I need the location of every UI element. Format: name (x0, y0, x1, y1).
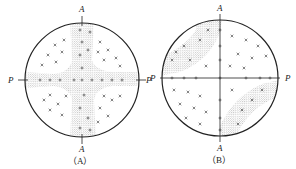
figure-a: A A P P （A） (7, 4, 152, 166)
label-a-top-b: A (216, 3, 223, 13)
pole-figure-diagram: A A P P （A） A (0, 0, 296, 169)
label-a-top: A (78, 4, 85, 14)
label-a-bottom-b: A (216, 143, 223, 153)
label-p-left-b: P (149, 73, 156, 83)
caption-b: （B） (207, 155, 231, 165)
caption-a: （A） (68, 156, 93, 166)
figure-b: A A P P （B） (149, 3, 291, 165)
label-a-bottom: A (78, 144, 85, 154)
label-p-left: P (7, 75, 14, 85)
label-p-right-b: P (284, 73, 291, 83)
